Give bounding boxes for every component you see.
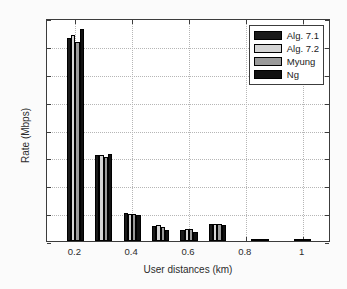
legend-swatch [254, 31, 282, 40]
bar [80, 29, 84, 241]
x-tick-label: 0.2 [68, 246, 81, 257]
y-tick-mark [47, 187, 51, 188]
y-tick-mark [325, 48, 329, 49]
bar [193, 232, 197, 241]
y-tick-mark [325, 104, 329, 105]
bar-group [95, 20, 112, 241]
legend-swatch [254, 44, 282, 53]
y-tick-mark [325, 215, 329, 216]
legend-label: Alg. 7.1 [287, 31, 319, 41]
legend-item: Alg. 7.2 [254, 42, 319, 55]
bar-group [152, 20, 169, 241]
bar-group [209, 20, 226, 241]
bar-group [67, 20, 84, 241]
bar [136, 215, 140, 241]
y-tick-mark [47, 76, 51, 77]
bar [307, 239, 311, 241]
x-axis-title: User distances (km) [46, 264, 330, 275]
bar [222, 225, 226, 241]
legend-label: Myung [287, 57, 316, 67]
y-tick-mark [325, 132, 329, 133]
bar-group [180, 20, 197, 241]
y-tick-mark [47, 243, 51, 244]
bar-group [124, 20, 141, 241]
legend-item: Ng [254, 68, 319, 81]
legend-item: Myung [254, 55, 319, 68]
y-tick-mark [47, 215, 51, 216]
y-tick-mark [47, 20, 51, 21]
y-tick-mark [47, 104, 51, 105]
x-tick-label: 0.8 [238, 246, 251, 257]
figure-bar-chart: Rate (Mbps) User distances (km) 02468101… [0, 0, 347, 289]
legend-item: Alg. 7.1 [254, 29, 319, 42]
y-tick-mark [47, 159, 51, 160]
x-tick-label: 1 [299, 246, 304, 257]
x-tick-label: 0.4 [125, 246, 138, 257]
y-axis-title: Rate (Mbps) [20, 66, 31, 206]
y-tick-mark [325, 76, 329, 77]
legend-swatch [254, 57, 282, 66]
x-tick-mark [246, 237, 247, 241]
y-tick-mark [325, 20, 329, 21]
y-tick-mark [325, 159, 329, 160]
plot-area: Alg. 7.1Alg. 7.2MyungNg [46, 19, 330, 242]
legend-label: Alg. 7.2 [287, 44, 319, 54]
bar [108, 154, 112, 241]
y-tick-mark [47, 48, 51, 49]
y-tick-mark [47, 132, 51, 133]
legend-label: Ng [287, 70, 299, 80]
gridline-vertical [246, 20, 247, 241]
y-tick-mark [325, 243, 329, 244]
bar [264, 239, 268, 241]
x-tick-label: 0.6 [181, 246, 194, 257]
x-tick-mark [246, 20, 247, 24]
y-tick-mark [325, 187, 329, 188]
legend: Alg. 7.1Alg. 7.2MyungNg [249, 25, 324, 85]
bar [165, 230, 169, 241]
legend-swatch [254, 70, 282, 79]
